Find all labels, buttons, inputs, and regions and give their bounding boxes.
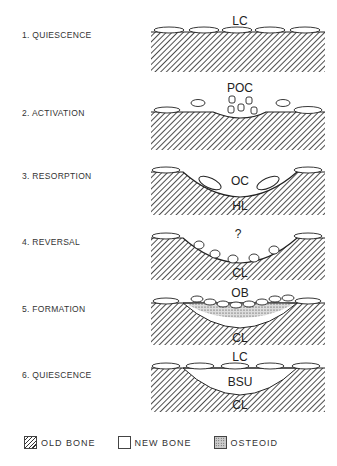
label-cl-6: CL xyxy=(232,398,248,412)
panel-quiescence-1: LC xyxy=(151,14,325,72)
legend-label: NEW BONE xyxy=(135,438,192,448)
label-hl: HL xyxy=(232,199,248,213)
stippled-swatch-icon xyxy=(214,436,227,449)
legend-label: OSTEOID xyxy=(231,438,279,448)
panel-formation: OB CL xyxy=(151,286,325,345)
label-bsu: BSU xyxy=(228,375,253,389)
legend: OLD BONE NEW BONE OSTEOID xyxy=(24,436,300,449)
legend-osteoid: OSTEOID xyxy=(214,436,279,449)
legend-label: OLD BONE xyxy=(41,438,96,448)
label-oc: OC xyxy=(231,174,249,188)
panel-quiescence-2: LC BSU CL xyxy=(151,350,325,412)
panel-activation: POC xyxy=(151,81,325,150)
blank-swatch-icon xyxy=(118,436,131,449)
label-question: ? xyxy=(235,227,242,241)
label-ob: OB xyxy=(231,286,248,300)
label-lc-6: LC xyxy=(232,350,248,364)
legend-old-bone: OLD BONE xyxy=(24,436,96,449)
panel-reversal: ? CL xyxy=(151,227,325,280)
label-lc: LC xyxy=(232,14,248,28)
label-cl-5: CL xyxy=(232,331,248,345)
label-cl-4: CL xyxy=(232,266,248,280)
bone-remodeling-diagram: LC POC OC HL xyxy=(0,0,337,466)
panel-resorption: OC HL xyxy=(151,167,325,215)
legend-new-bone: NEW BONE xyxy=(118,436,192,449)
hatched-swatch-icon xyxy=(24,436,37,449)
label-poc: POC xyxy=(227,81,253,95)
